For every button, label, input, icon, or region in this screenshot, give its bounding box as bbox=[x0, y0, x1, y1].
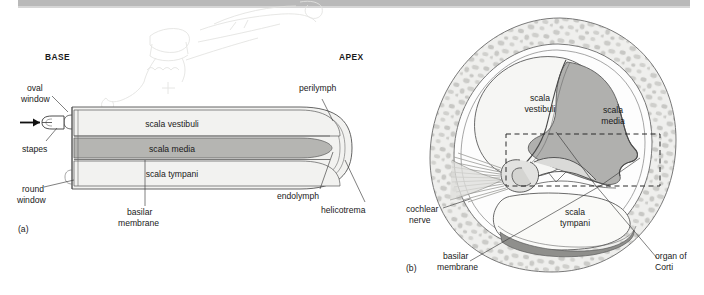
label-scala-media-a: scala media bbox=[149, 144, 195, 154]
label-organ-of-corti-line1: organ of bbox=[655, 251, 687, 261]
label-cochlear-nerve-line2: nerve bbox=[409, 215, 431, 225]
panel-a-tag: (a) bbox=[18, 224, 29, 234]
label-basilar-membrane-line2: membrane bbox=[118, 218, 159, 228]
label-oval-window-line1: oval bbox=[27, 83, 43, 93]
stapes-assembly bbox=[20, 116, 64, 129]
leader-helicotrema bbox=[345, 160, 365, 202]
label-basilar-membrane-b-line2: membrane bbox=[437, 262, 478, 272]
label-scala-media-b-line1: scala bbox=[603, 105, 623, 115]
label-helicotrema: helicotrema bbox=[321, 205, 366, 215]
label-basilar-membrane-b-line1: basilar bbox=[443, 251, 468, 261]
label-scala-media-b-line2: media bbox=[601, 116, 625, 126]
ghost-bleedthrough-artifact bbox=[102, 1, 323, 110]
label-basilar-membrane-line1: basilar bbox=[127, 207, 152, 217]
label-scala-vestibuli-b-line2: vestibuli bbox=[524, 104, 555, 114]
label-cochlear-nerve-line1: cochlear bbox=[406, 204, 439, 214]
label-base: BASE bbox=[45, 52, 70, 62]
label-scala-tympani-b-line1: scala bbox=[565, 207, 585, 217]
label-organ-of-corti-line2: Corti bbox=[655, 262, 673, 272]
label-scala-tympani-b-line2: tympani bbox=[560, 218, 590, 228]
panel-b: scala vestibuli scala media scala tympan… bbox=[406, 18, 687, 273]
label-endolymph: endolymph bbox=[277, 191, 319, 201]
label-stapes: stapes bbox=[22, 144, 47, 154]
label-scala-tympani-a: scala tympani bbox=[146, 169, 199, 179]
label-perilymph: perilymph bbox=[299, 83, 336, 93]
label-oval-window-line2: window bbox=[20, 94, 50, 104]
label-apex: APEX bbox=[339, 52, 363, 62]
panel-a: BASE APEX oval window stapes round windo… bbox=[16, 52, 366, 234]
label-scala-vestibuli-a: scala vestibuli bbox=[145, 119, 199, 129]
scan-edge-bar bbox=[18, 0, 690, 8]
panel-b-tag: (b) bbox=[406, 263, 417, 273]
label-scala-vestibuli-b-line1: scala bbox=[530, 93, 550, 103]
leader-oval-window bbox=[52, 96, 68, 112]
uncoiled-cochlea-duct bbox=[64, 107, 352, 189]
scala-vestibuli-chamber bbox=[74, 110, 340, 136]
label-round-window-line2: window bbox=[16, 195, 46, 205]
scala-tympani-chamber bbox=[74, 161, 340, 186]
cochlea-figure: BASE APEX oval window stapes round windo… bbox=[0, 0, 704, 295]
scala-media-chamber bbox=[74, 138, 332, 158]
label-round-window-line1: round bbox=[22, 184, 44, 194]
figure-canvas: BASE APEX oval window stapes round windo… bbox=[0, 0, 704, 295]
leader-stapes bbox=[46, 128, 57, 141]
oval-window-opening bbox=[64, 115, 72, 129]
sound-input-arrow-head bbox=[33, 119, 40, 127]
